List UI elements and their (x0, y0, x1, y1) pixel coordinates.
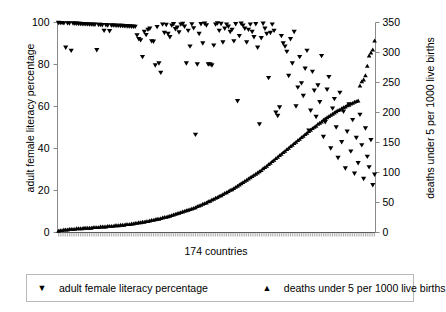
y-axis-left-tick: 20 (16, 184, 50, 196)
y-axis-right-tick: 300 (383, 46, 423, 58)
legend-item-mortality: ▲ deaths under 5 per 1000 live births (260, 275, 446, 301)
chart-legend: ▼ adult female literacy percentage ▲ dea… (26, 274, 414, 302)
y-axis-left-tick: 60 (16, 100, 50, 112)
y-axis-right-title: deaths under 5 per 1000 live births (424, 18, 436, 218)
x-axis-title: 174 countries (57, 245, 375, 257)
plot-area (0, 0, 438, 250)
y-axis-left-tick: 100 (16, 16, 50, 28)
y-axis-left-tick: 80 (16, 58, 50, 70)
legend-label-literacy: adult female literacy percentage (59, 282, 208, 294)
y-axis-left-tick: 0 (16, 226, 50, 238)
triangle-down-icon: ▼ (35, 284, 49, 293)
y-axis-right-tick: 0 (383, 226, 423, 238)
y-axis-right-tick: 150 (383, 136, 423, 148)
y-axis-right-tick: 50 (383, 196, 423, 208)
y-axis-right-tick: 100 (383, 166, 423, 178)
legend-label-mortality: deaths under 5 per 1000 live births (284, 282, 446, 294)
y-axis-right-tick: 200 (383, 106, 423, 118)
legend-item-literacy: ▼ adult female literacy percentage (35, 275, 208, 301)
y-axis-right-tick: 350 (383, 16, 423, 28)
y-axis-left-tick: 40 (16, 142, 50, 154)
triangle-up-icon: ▲ (260, 284, 274, 293)
y-axis-right-tick: 250 (383, 76, 423, 88)
